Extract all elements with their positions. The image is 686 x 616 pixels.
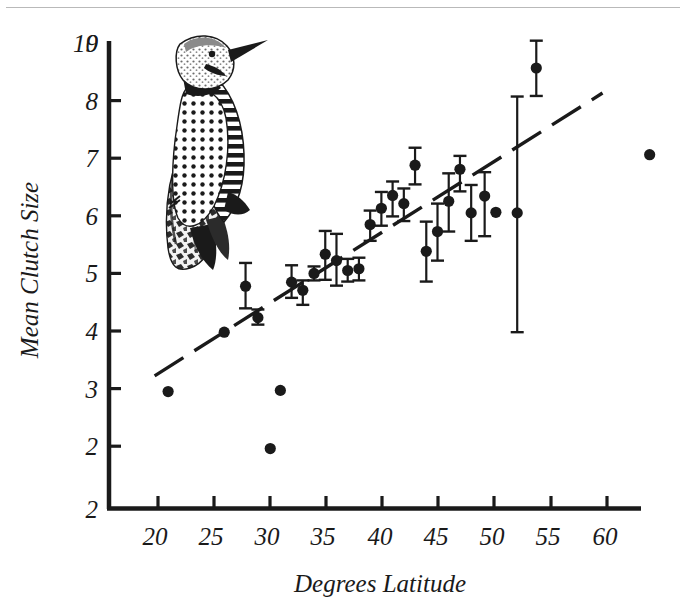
data-points-layer bbox=[163, 41, 656, 454]
data-point-marker bbox=[240, 281, 251, 292]
data-point bbox=[465, 185, 478, 241]
data-point-marker bbox=[387, 190, 398, 201]
data-point-marker bbox=[466, 207, 477, 218]
x-tick-label: 60 bbox=[593, 523, 619, 550]
data-point-marker bbox=[286, 277, 297, 288]
data-point-marker bbox=[531, 62, 542, 73]
data-point bbox=[530, 41, 543, 96]
data-point bbox=[431, 204, 444, 261]
data-point bbox=[308, 266, 321, 280]
y-tick-label: 3 bbox=[85, 376, 99, 403]
figure-container: 9 8 7 6 5 4 3 2 2 10 20 25 30 35 40 45 5… bbox=[0, 0, 686, 616]
data-point-marker bbox=[409, 160, 420, 171]
data-point-marker bbox=[365, 219, 376, 230]
data-point bbox=[265, 443, 276, 454]
data-point-marker bbox=[490, 207, 501, 218]
data-point bbox=[442, 173, 455, 231]
data-point-marker bbox=[432, 226, 443, 237]
data-point-marker bbox=[320, 249, 331, 260]
data-point bbox=[420, 222, 433, 282]
data-point bbox=[341, 259, 354, 282]
data-point-marker bbox=[421, 246, 432, 257]
data-point-marker bbox=[163, 386, 174, 397]
data-point bbox=[219, 327, 230, 338]
data-point bbox=[409, 148, 422, 185]
data-point-marker bbox=[275, 385, 286, 396]
data-point bbox=[375, 192, 388, 226]
data-point-marker bbox=[644, 149, 655, 160]
data-point-marker bbox=[479, 190, 490, 201]
data-point-marker bbox=[353, 263, 364, 274]
data-point bbox=[330, 234, 343, 286]
y-tick-label: 5 bbox=[86, 260, 99, 287]
data-point bbox=[478, 172, 491, 236]
data-point-marker bbox=[219, 327, 230, 338]
y-tick-label: 4 bbox=[86, 318, 99, 345]
data-point bbox=[352, 258, 365, 281]
x-tick-label: 55 bbox=[536, 523, 561, 550]
y-tick-label-bottom: 2 bbox=[86, 496, 99, 523]
x-tick-label: 25 bbox=[199, 523, 224, 550]
data-point-marker bbox=[252, 312, 263, 323]
x-tick-label: 50 bbox=[480, 523, 506, 550]
x-tick-label: 30 bbox=[254, 523, 281, 550]
x-axis-title: Degrees Latitude bbox=[293, 570, 466, 597]
data-point-marker bbox=[297, 285, 308, 296]
scatter-plot-svg: 9 8 7 6 5 4 3 2 2 10 20 25 30 35 40 45 5… bbox=[0, 0, 686, 616]
y-tick-label: 6 bbox=[86, 203, 99, 230]
data-point-marker bbox=[454, 164, 465, 175]
x-axis-ticks bbox=[158, 496, 607, 508]
y-tick-label: 7 bbox=[86, 145, 100, 172]
x-tick-label: 40 bbox=[368, 523, 394, 550]
data-point bbox=[275, 385, 286, 396]
data-point-marker bbox=[265, 443, 276, 454]
data-point bbox=[511, 97, 524, 333]
data-point bbox=[644, 149, 655, 160]
x-tick-label: 20 bbox=[143, 523, 169, 550]
x-tick-label: 45 bbox=[424, 523, 449, 550]
y-tick-label: 8 bbox=[86, 88, 99, 115]
data-point-marker bbox=[443, 196, 454, 207]
data-point bbox=[239, 263, 252, 308]
y-tick-label: 2 bbox=[86, 433, 99, 460]
y-axis-tick-labels: 9 8 7 6 5 4 3 2 2 bbox=[85, 30, 100, 523]
data-point-marker bbox=[376, 203, 387, 214]
x-tick-label: 35 bbox=[310, 523, 336, 550]
data-point-marker bbox=[308, 268, 319, 279]
data-point-marker bbox=[342, 265, 353, 276]
y-tick-label-top: 10 bbox=[73, 30, 99, 57]
y-axis-title: Mean Clutch Size bbox=[16, 182, 43, 359]
x-axis-tick-labels: 20 25 30 35 40 45 50 55 60 bbox=[143, 523, 619, 550]
data-point-marker bbox=[331, 255, 342, 266]
data-point-marker bbox=[398, 198, 409, 209]
data-point bbox=[490, 207, 501, 218]
data-point bbox=[386, 181, 399, 216]
data-point bbox=[163, 386, 174, 397]
northern-flicker-woodpecker-icon bbox=[167, 36, 269, 270]
data-point-marker bbox=[512, 207, 523, 218]
